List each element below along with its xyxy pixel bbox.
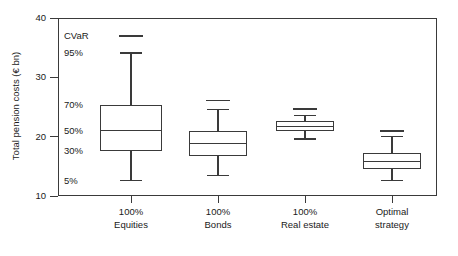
- x-tick-label-line1: Optimal: [332, 206, 452, 219]
- upper-whisker-cap: [381, 136, 403, 137]
- y-tick-label: 10: [14, 191, 46, 201]
- lower-whisker-cap: [381, 180, 403, 181]
- percentile-label: 50%: [64, 126, 104, 136]
- percentile-label: 95%: [64, 48, 104, 58]
- x-tick-label-line2: strategy: [332, 219, 452, 232]
- x-tick-label: Optimalstrategy: [332, 206, 452, 231]
- lower-whisker-cap: [207, 175, 229, 176]
- y-tick-mark: [50, 196, 58, 197]
- y-tick-label: 20: [14, 132, 46, 142]
- y-tick-label: 40: [14, 13, 46, 23]
- y-tick-label: 30: [14, 72, 46, 82]
- upper-whisker: [130, 53, 131, 105]
- x-tick-mark: [131, 196, 132, 203]
- lower-whisker-cap: [294, 138, 316, 139]
- percentile-label: CVaR: [64, 31, 104, 41]
- upper-whisker-cap: [120, 52, 142, 53]
- box-iqr: [100, 105, 162, 151]
- lower-whisker: [391, 169, 392, 181]
- cvar-marker: [119, 35, 143, 37]
- lower-whisker-cap: [120, 180, 142, 181]
- percentile-label: 30%: [64, 146, 104, 156]
- upper-whisker-cap: [207, 109, 229, 110]
- y-tick-mark: [50, 18, 58, 19]
- box-plot-chart: Total pension costs (€ bn) 10203040 100%…: [0, 0, 458, 256]
- median-line: [363, 161, 421, 162]
- cvar-marker: [293, 108, 317, 110]
- upper-whisker: [391, 137, 392, 154]
- median-line: [100, 130, 162, 131]
- x-tick-mark: [305, 196, 306, 203]
- lower-whisker: [217, 156, 218, 175]
- median-line: [276, 126, 334, 127]
- median-line: [189, 143, 247, 144]
- y-tick-mark: [50, 136, 58, 137]
- y-tick-mark: [50, 77, 58, 78]
- y-axis-title: Total pension costs (€ bn): [8, 6, 24, 206]
- cvar-marker: [206, 100, 230, 102]
- cvar-marker: [380, 130, 404, 132]
- x-tick-mark: [392, 196, 393, 203]
- x-tick-mark: [218, 196, 219, 203]
- percentile-label: 70%: [64, 100, 104, 110]
- lower-whisker: [130, 151, 131, 181]
- percentile-label: 5%: [64, 176, 104, 186]
- upper-whisker-cap: [294, 115, 316, 116]
- upper-whisker: [217, 109, 218, 130]
